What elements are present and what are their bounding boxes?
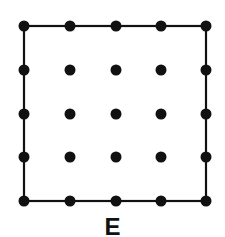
grid-dot: [111, 65, 122, 76]
grid-dot: [156, 21, 167, 32]
grid-dot: [201, 65, 212, 76]
grid-dot: [65, 152, 76, 163]
grid-dot: [156, 152, 167, 163]
grid-dot: [201, 21, 212, 32]
grid-dot: [65, 21, 76, 32]
grid-dot: [19, 65, 30, 76]
dot-grid-square-diagram: [0, 0, 225, 237]
grid-dot: [19, 196, 30, 207]
grid-dot: [19, 21, 30, 32]
grid-dot: [111, 109, 122, 120]
grid-dot: [65, 196, 76, 207]
grid-dot: [19, 109, 30, 120]
figure-label: E: [0, 212, 225, 237]
grid-dot: [19, 152, 30, 163]
grid-dot: [111, 152, 122, 163]
grid-dot: [65, 65, 76, 76]
grid-dot: [156, 65, 167, 76]
grid-dot: [156, 196, 167, 207]
grid-dot: [65, 109, 76, 120]
grid-dot: [201, 109, 212, 120]
grid-dot: [111, 21, 122, 32]
grid-dot: [201, 196, 212, 207]
grid-dot: [156, 109, 167, 120]
grid-dot: [201, 152, 212, 163]
grid-dot: [111, 196, 122, 207]
